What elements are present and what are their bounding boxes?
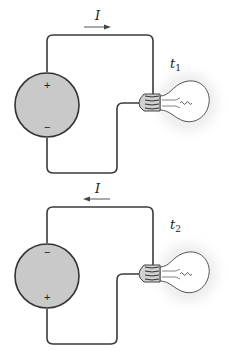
battery-top-sign: + [44,80,50,91]
circuit-diagram-t2 [0,180,229,359]
circuit-diagram-t1 [0,0,229,180]
time-label-subscript: 1 [175,63,181,73]
circuit-panel-t2: I t2 − + [0,180,229,359]
battery-top-sign: − [44,247,50,258]
battery-bottom-sign: − [44,122,50,133]
time-label: t2 [170,217,181,234]
current-label: I [95,181,100,196]
time-label-subscript: 2 [175,224,181,234]
time-label: t1 [170,56,181,73]
current-label: I [95,8,100,23]
arrow-right-icon [104,25,111,30]
circuit-panel-t1: I t1 + − [0,0,229,180]
arrow-left-icon [83,197,90,202]
battery-bottom-sign: + [44,292,50,303]
